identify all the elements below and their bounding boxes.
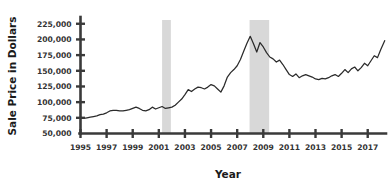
x-tick-label: 1997 (96, 143, 117, 152)
x-tick-label: 1995 (70, 143, 91, 152)
line-chart: 50,00075,000100,000125,000150,000175,000… (0, 0, 392, 184)
y-tick-label: 175,000 (37, 51, 72, 60)
axes (76, 17, 386, 138)
y-tick-label: 50,000 (42, 129, 71, 138)
y-tick-label: 125,000 (37, 82, 72, 91)
y-tick-label: 75,000 (42, 114, 71, 123)
x-tick-label: 2001 (148, 143, 169, 152)
x-tick-label: 2009 (253, 143, 274, 152)
y-tick-label: 225,000 (37, 20, 72, 29)
x-tick-labels: 1995199719992001200320052007200920112013… (70, 143, 378, 152)
x-tick-label: 2015 (331, 143, 352, 152)
y-tick-label: 100,000 (37, 98, 72, 107)
chart-container: 50,00075,000100,000125,000150,000175,000… (0, 0, 392, 184)
recession-band-2001 (162, 20, 171, 134)
x-tick-label: 2003 (174, 143, 195, 152)
x-tick-label: 2005 (200, 143, 221, 152)
x-tick-label: 2007 (227, 143, 248, 152)
series-line-0 (81, 36, 385, 118)
x-tick-label: 2011 (279, 143, 300, 152)
x-tick-label: 1999 (122, 143, 143, 152)
x-tick-label: 2013 (305, 143, 326, 152)
x-axis-title: Year (214, 168, 242, 180)
y-tick-label: 200,000 (37, 35, 72, 44)
y-tick-label: 150,000 (37, 67, 72, 76)
recession-band-2008 (250, 20, 270, 134)
recession-bands (162, 20, 269, 134)
y-axis-title: Sale Price in Dollars (6, 17, 18, 136)
plot-series (81, 36, 385, 118)
x-tick-label: 2017 (357, 143, 378, 152)
y-tick-labels: 50,00075,000100,000125,000150,000175,000… (37, 20, 72, 139)
